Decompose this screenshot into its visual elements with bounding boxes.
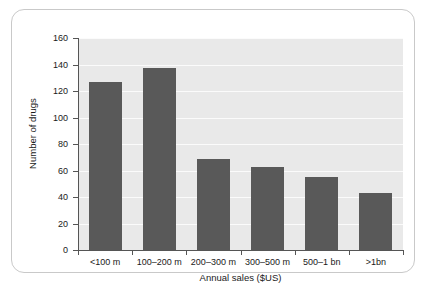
gridline: [78, 171, 403, 172]
x-tick-label-1: <100 m: [78, 257, 132, 268]
x-tick: [241, 251, 242, 255]
gridline: [78, 38, 403, 39]
x-tick: [295, 251, 296, 255]
y-tick-label: 160: [28, 34, 68, 43]
x-tick-label-6: >1bn: [349, 257, 403, 268]
y-tick: [73, 118, 78, 119]
y-axis-line: [78, 38, 79, 251]
x-tick-label-4: 300–500 m: [241, 257, 295, 268]
x-tick: [186, 251, 187, 255]
x-tick-label-2: 100–200 m: [132, 257, 186, 268]
x-tick-label-5: 500–1 bn: [295, 257, 349, 268]
y-tick: [73, 65, 78, 66]
y-tick-label: 0: [28, 246, 68, 255]
y-tick: [73, 91, 78, 92]
plot-area: [78, 38, 403, 250]
gridline: [78, 144, 403, 145]
x-axis-tick-labels: <100 m100–200 m200–300 m300–500 m500–1 b…: [78, 257, 403, 268]
y-tick: [73, 224, 78, 225]
x-axis-title: Annual sales ($US): [78, 272, 403, 283]
y-axis-title: Number of drugs: [27, 84, 38, 184]
y-tick-label: 20: [28, 220, 68, 229]
x-tick: [78, 251, 79, 255]
y-tick: [73, 38, 78, 39]
x-tick-label-3: 200–300 m: [186, 257, 240, 268]
x-tick: [349, 251, 350, 255]
x-tick: [403, 251, 404, 255]
y-tick-label: 40: [28, 193, 68, 202]
y-tick: [73, 144, 78, 145]
gridline: [78, 65, 403, 66]
gridline: [78, 91, 403, 92]
figure-frame: 020406080100120140160 <100 m100–200 m200…: [11, 9, 415, 273]
y-tick: [73, 171, 78, 172]
x-tick: [132, 251, 133, 255]
gridline: [78, 118, 403, 119]
gridline: [78, 197, 403, 198]
y-tick: [73, 197, 78, 198]
y-tick-label: 140: [28, 61, 68, 70]
gridline: [78, 224, 403, 225]
